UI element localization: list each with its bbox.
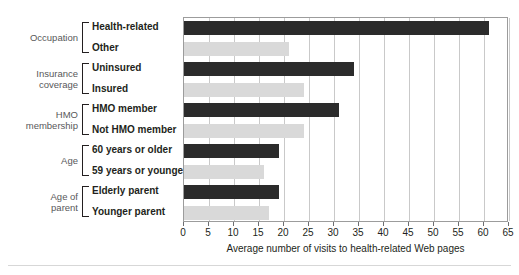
x-axis-title: Average number of visits to health-relat…	[183, 243, 508, 254]
axis-tick	[233, 222, 234, 226]
subcategory-label: 59 years or younger	[92, 165, 187, 177]
category-group: HMOmembershipHMO memberNot HMO member	[0, 99, 183, 140]
subcategory-label: Not HMO member	[92, 124, 183, 136]
axis-tick	[483, 222, 484, 226]
axis-tick-label: 15	[252, 227, 263, 238]
axis-tick-label: 30	[327, 227, 338, 238]
group-bracket	[82, 22, 89, 53]
group-bracket	[82, 145, 89, 176]
axis-tick	[283, 222, 284, 226]
axis-tick	[333, 222, 334, 226]
bar-insured	[184, 83, 304, 97]
group-label: Age ofparent	[0, 191, 82, 213]
bar-row	[184, 62, 509, 76]
axis-tick-label: 60	[477, 227, 488, 238]
category-group: Age60 years or older59 years or younger	[0, 140, 183, 181]
footer-divider	[8, 265, 511, 266]
bar-60-years-or-older	[184, 144, 279, 158]
subcategory-label: Health-related	[92, 21, 183, 33]
axis-tick	[433, 222, 434, 226]
subcategory-label: Other	[92, 42, 183, 54]
group-bracket	[82, 63, 89, 94]
group-bracket	[82, 104, 89, 135]
bar-uninsured	[184, 62, 354, 76]
axis-tick	[383, 222, 384, 226]
axis-tick-label: 25	[302, 227, 313, 238]
bar-other	[184, 42, 289, 56]
group-label: Age	[0, 155, 82, 166]
subcategory-label: Uninsured	[92, 62, 183, 74]
axis-tick	[358, 222, 359, 226]
plot-area	[183, 17, 508, 222]
axis-tick	[258, 222, 259, 226]
axis-tick	[508, 222, 509, 226]
bar-row	[184, 21, 509, 35]
x-axis: 05101520253035404550556065	[183, 222, 508, 242]
bar-health-related	[184, 21, 489, 35]
subcategory-label: Elderly parent	[92, 185, 183, 197]
axis-tick	[458, 222, 459, 226]
category-group: Age ofparentElderly parentYounger parent	[0, 181, 183, 222]
subcategory-labels: UninsuredInsured	[89, 58, 183, 99]
category-group: InsurancecoverageUninsuredInsured	[0, 58, 183, 99]
subcategory-labels: HMO memberNot HMO member	[89, 99, 183, 140]
axis-tick	[308, 222, 309, 226]
axis-tick-label: 0	[180, 227, 186, 238]
group-bracket	[82, 186, 89, 217]
bar-row	[184, 144, 509, 158]
subcategory-label: Insured	[92, 83, 183, 95]
group-label: Occupation	[0, 32, 82, 43]
subcategory-label: 60 years or older	[92, 144, 187, 156]
bar-not-hmo-member	[184, 124, 304, 138]
category-label-column: OccupationHealth-relatedOtherInsuranceco…	[0, 17, 183, 222]
subcategory-labels: Health-relatedOther	[89, 17, 183, 58]
bar-59-years-or-younger	[184, 165, 264, 179]
subcategory-label: Younger parent	[92, 206, 183, 218]
axis-tick-label: 45	[402, 227, 413, 238]
bar-row	[184, 165, 509, 179]
axis-tick-label: 5	[205, 227, 211, 238]
subcategory-labels: Elderly parentYounger parent	[89, 181, 183, 222]
bar-row	[184, 83, 509, 97]
axis-tick-label: 50	[427, 227, 438, 238]
bar-elderly-parent	[184, 185, 279, 199]
bar-row	[184, 206, 509, 220]
axis-tick-label: 10	[227, 227, 238, 238]
bar-hmo-member	[184, 103, 339, 117]
axis-tick-label: 55	[452, 227, 463, 238]
gridline	[509, 18, 510, 221]
group-label: Insurancecoverage	[0, 68, 82, 90]
bar-younger-parent	[184, 206, 269, 220]
bar-row	[184, 124, 509, 138]
chart-screenshot: OccupationHealth-relatedOtherInsuranceco…	[0, 0, 519, 275]
subcategory-labels: 60 years or older59 years or younger	[89, 140, 187, 181]
axis-tick-label: 65	[502, 227, 513, 238]
bar-row	[184, 185, 509, 199]
axis-tick	[408, 222, 409, 226]
bar-row	[184, 103, 509, 117]
axis-tick-label: 35	[352, 227, 363, 238]
bar-row	[184, 42, 509, 56]
subcategory-label: HMO member	[92, 103, 183, 115]
group-label: HMOmembership	[0, 109, 82, 131]
category-group: OccupationHealth-relatedOther	[0, 17, 183, 58]
axis-tick	[183, 222, 184, 226]
axis-tick	[208, 222, 209, 226]
axis-tick-label: 20	[277, 227, 288, 238]
axis-tick-label: 40	[377, 227, 388, 238]
